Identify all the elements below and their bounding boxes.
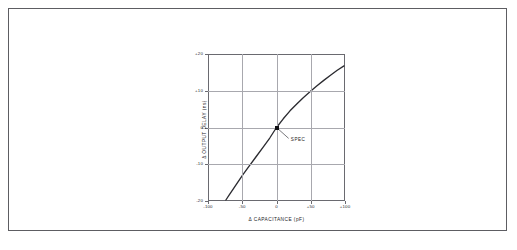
y-tick-mark: [205, 54, 208, 55]
y-axis-title: Δ OUTPUT DELAY (ns): [202, 56, 207, 203]
x-tick-label: -100: [203, 205, 212, 209]
gridline-horizontal: [208, 164, 345, 165]
x-tick-label: +50: [307, 205, 315, 209]
x-tick-label: +100: [340, 205, 351, 209]
x-tick-label: 0: [275, 205, 278, 209]
page-frame: -100-500+50+100-20-100+10+20 SPEC Δ CAPA…: [8, 8, 507, 231]
y-tick-label: 0: [182, 125, 203, 129]
y-tick-label: +20: [182, 52, 203, 56]
y-tick-label: +10: [182, 89, 203, 93]
gridline-horizontal: [208, 91, 345, 92]
chart-figure: -100-500+50+100-20-100+10+20 SPEC Δ CAPA…: [169, 39, 359, 229]
x-axis-title: Δ CAPACITANCE (pF): [208, 217, 345, 222]
spec-point-label: SPEC: [291, 137, 306, 142]
data-series-line: [226, 66, 344, 200]
y-tick-label: -10: [182, 162, 203, 166]
y-tick-label: -20: [182, 199, 203, 203]
x-tick-label: -50: [239, 205, 246, 209]
spec-point-marker: [275, 126, 279, 130]
